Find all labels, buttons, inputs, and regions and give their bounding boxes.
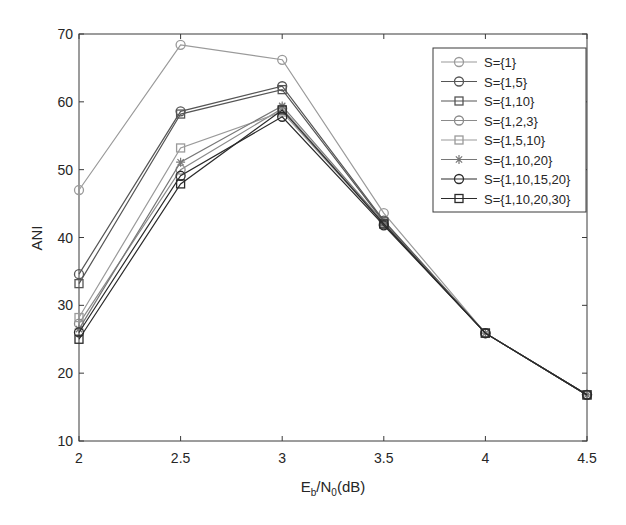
y-tick-label: 50 xyxy=(57,162,73,178)
legend-label: S={1,5} xyxy=(484,75,528,90)
x-tick-label: 4.5 xyxy=(577,450,597,466)
y-tick-label: 20 xyxy=(57,365,73,381)
x-tick-label: 4 xyxy=(482,450,490,466)
x-tick-label: 3 xyxy=(278,450,286,466)
x-tick-label: 2 xyxy=(75,450,83,466)
y-axis-label: ANI xyxy=(28,225,45,250)
legend-label: S={1,10,15,20} xyxy=(484,172,571,187)
line-chart: 22.533.544.510203040506070 ANI Eb/N0(dB)… xyxy=(0,0,626,525)
legend-label: S={1,10,20,30} xyxy=(484,192,571,207)
legend-label: S={1,2,3} xyxy=(484,114,539,129)
x-tick-label: 3.5 xyxy=(374,450,394,466)
x-label-unit: (dB) xyxy=(337,478,365,495)
legend-label: S={1,5,10} xyxy=(484,133,546,148)
x-tick-label: 2.5 xyxy=(171,450,191,466)
legend-label: S={1,10,20} xyxy=(484,153,553,168)
legend: S={1}S={1,5}S={1,10}S={1,2,3}S={1,5,10}S… xyxy=(433,48,586,212)
data-point-star xyxy=(176,158,185,167)
legend-box xyxy=(433,48,586,212)
y-tick-label: 60 xyxy=(57,94,73,110)
legend-marker-star xyxy=(455,155,464,164)
x-label-E: E xyxy=(301,478,311,495)
legend-label: S={1,10} xyxy=(484,94,535,109)
y-tick-label: 70 xyxy=(57,26,73,42)
y-tick-label: 30 xyxy=(57,297,73,313)
x-label-slash-N: /N xyxy=(316,478,331,495)
y-tick-label: 40 xyxy=(57,230,73,246)
y-tick-label: 10 xyxy=(57,433,73,449)
x-axis-label: Eb/N0(dB) xyxy=(301,478,365,498)
legend-label: S={1} xyxy=(484,55,517,70)
